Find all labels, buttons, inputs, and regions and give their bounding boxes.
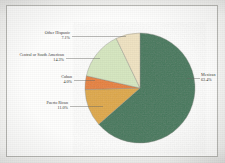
pie-label-mexican-value: 63.4%	[201, 77, 225, 82]
chart-screenshot: Other Hispanic 7.1% Central or South Ame…	[0, 0, 225, 163]
pie-label-puerto-rican-value: 11.0%	[20, 105, 68, 110]
pie-slices	[85, 33, 195, 143]
pie-label-other-hispanic: Other Hispanic 7.1%	[16, 30, 70, 40]
pie-label-puerto-rican: Puerto Rican 11.0%	[20, 100, 68, 110]
pie-label-other-hispanic-value: 7.1%	[16, 35, 70, 40]
pie-label-central-or-south-american: Central or South American 14.3%	[2, 52, 64, 62]
pie-label-central-or-south-american-value: 14.3%	[2, 57, 64, 62]
pie-label-cuban: Cuban 4.0%	[28, 74, 72, 84]
pie-label-mexican: Mexican 63.4%	[201, 72, 225, 82]
pie-label-cuban-value: 4.0%	[28, 79, 72, 84]
